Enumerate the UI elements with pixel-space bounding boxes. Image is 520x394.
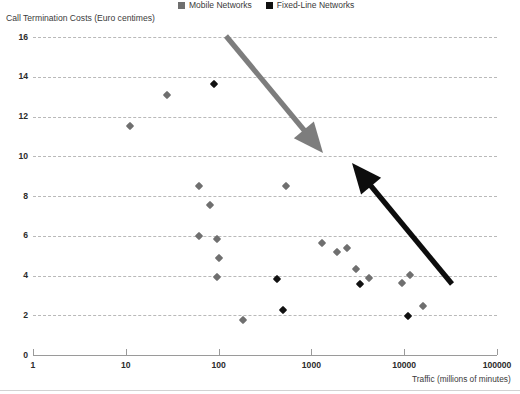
annotation-layer (0, 0, 520, 394)
chart-root: Mobile NetworksFixed-Line Networks Call … (0, 0, 520, 394)
fixed-line-trend-arrow-shaft (367, 181, 452, 284)
bottom-divider (0, 390, 520, 391)
mobile-trend-arrow-shaft (226, 36, 308, 135)
